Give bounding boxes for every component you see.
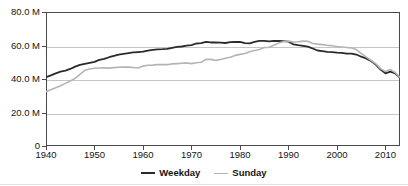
- x-tick-mark: [288, 146, 289, 150]
- x-tick-mark: [94, 146, 95, 150]
- x-tick-label: 1950: [74, 150, 114, 160]
- chart-legend: WeekdaySunday: [0, 168, 408, 178]
- legend-label: Weekday: [159, 168, 200, 178]
- series-line-sunday: [46, 41, 400, 92]
- legend-swatch-line-icon: [214, 173, 228, 174]
- series-layer: [46, 12, 400, 146]
- bottom-divider: [0, 184, 408, 185]
- legend-swatch-line-icon: [141, 172, 155, 174]
- x-tick-mark: [191, 146, 192, 150]
- x-tick-label: 2010: [365, 150, 405, 160]
- y-tick-label: 80.0 M: [0, 7, 40, 17]
- x-tick-label: 1990: [268, 150, 308, 160]
- chart-title-sliver: [0, 0, 408, 4]
- y-tick-label: 20.0 M: [0, 108, 40, 118]
- x-tick-mark: [385, 146, 386, 150]
- x-tick-label: 1980: [220, 150, 260, 160]
- x-tick-mark: [240, 146, 241, 150]
- x-tick-label: 2000: [317, 150, 357, 160]
- y-tick-label: 40.0 M: [0, 74, 40, 84]
- x-tick-label: 1970: [171, 150, 211, 160]
- legend-item-sunday[interactable]: Sunday: [214, 168, 266, 178]
- legend-label: Sunday: [232, 168, 266, 178]
- x-tick-mark: [337, 146, 338, 150]
- x-tick-label: 1960: [123, 150, 163, 160]
- x-tick-mark: [46, 146, 47, 150]
- y-tick-label: 60.0 M: [0, 41, 40, 51]
- legend-item-weekday[interactable]: Weekday: [141, 168, 200, 178]
- x-tick-label: 1940: [26, 150, 66, 160]
- line-chart: 80.0 M60.0 M40.0 M20.0 M0 19401950196019…: [0, 0, 408, 186]
- x-tick-mark: [143, 146, 144, 150]
